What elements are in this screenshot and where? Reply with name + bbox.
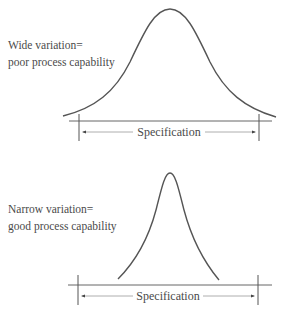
wide-variation-panel: Specification: [63, 9, 276, 141]
narrow-spec-arrowhead-left: [81, 295, 85, 298]
wide-bell-curve: [63, 9, 276, 117]
process-capability-diagram: Specification Specification: [0, 0, 287, 314]
narrow-variation-panel: Specification: [68, 173, 272, 305]
wide-spec-arrowhead-left: [82, 131, 86, 134]
narrow-spec-arrowhead-right: [251, 295, 255, 298]
narrow-bell-curve: [118, 173, 219, 280]
wide-spec-arrowhead-right: [252, 131, 256, 134]
wide-spec-label: Specification: [137, 125, 200, 139]
narrow-spec-label: Specification: [136, 289, 199, 303]
